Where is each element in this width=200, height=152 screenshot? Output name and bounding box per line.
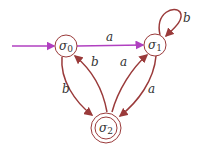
state-diagram: a b b b a a σ0 σ1 σ2 <box>0 0 200 152</box>
edge-label-s2-s1: a <box>120 55 127 69</box>
edge-label-s1-loop: b <box>183 11 191 25</box>
state-s1: σ1 <box>144 34 166 56</box>
edge-label-s1-s2: a <box>148 82 155 96</box>
edge-label-s0-s2: b <box>62 82 70 96</box>
edge-s1-loop <box>159 9 181 36</box>
edge-label-s0-s1: a <box>106 30 113 44</box>
diagram-canvas: a b b b a a σ0 σ1 σ2 <box>0 0 200 152</box>
state-s2-accepting: σ2 <box>91 113 121 143</box>
edge-s0-s1 <box>77 45 143 46</box>
state-s0: σ0 <box>55 35 77 57</box>
edge-s2-s1 <box>112 55 147 112</box>
edge-label-s2-s0: b <box>91 55 99 69</box>
